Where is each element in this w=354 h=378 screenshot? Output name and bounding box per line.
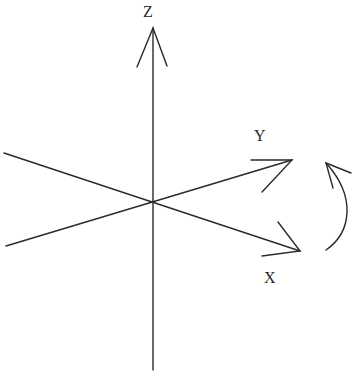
x-axis-label: X	[264, 270, 276, 286]
x-axis	[4, 153, 300, 256]
y-axis-label: Y	[254, 128, 266, 144]
coordinate-axes-diagram	[0, 0, 354, 378]
y-axis	[6, 160, 292, 246]
z-axis-label: Z	[143, 4, 153, 20]
y-arrowhead-icon	[251, 160, 292, 192]
rotation-arrow	[326, 163, 351, 250]
z-arrowhead-icon	[137, 28, 167, 67]
x-arrowhead-icon	[262, 222, 300, 256]
